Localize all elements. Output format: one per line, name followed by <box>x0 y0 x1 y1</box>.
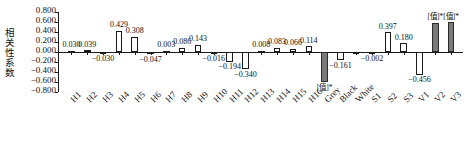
x-tick-label-s1: S1 <box>370 91 383 104</box>
x-tick-label-s2: S2 <box>386 91 399 104</box>
x-axis-tick <box>277 52 278 55</box>
bar-v1[interactable] <box>416 52 423 75</box>
bar-value-label: −0.030 <box>91 55 115 63</box>
y-axis-tick <box>55 42 59 43</box>
bar-h2[interactable] <box>84 50 91 52</box>
y-tick-label: 0.800 <box>14 6 56 15</box>
x-tick-label-v1: V1 <box>417 90 431 104</box>
bar-value-label: −0.340 <box>233 71 257 79</box>
x-axis-tick <box>309 52 310 55</box>
bar-s2[interactable] <box>385 32 392 52</box>
x-tick-label-v3: V3 <box>449 90 463 104</box>
x-axis-tick <box>435 52 436 55</box>
plot-area: 0.0300.039−0.0300.4290.308−0.0470.0030.0… <box>58 12 463 92</box>
x-tick-label-h6: H6 <box>149 90 163 104</box>
bar-h5[interactable] <box>131 37 138 52</box>
x-tick-label-h7: H7 <box>164 90 178 104</box>
bar-h9[interactable] <box>195 45 202 52</box>
y-tick-label: 0.000 <box>14 46 56 55</box>
bar-value-label: 0.039 <box>75 41 99 49</box>
x-tick-label-v2: V2 <box>433 90 447 104</box>
bar-black[interactable] <box>337 52 344 60</box>
y-tick-label: −0.400 <box>14 66 56 75</box>
y-tick-label: −0.800 <box>14 86 56 95</box>
bar-s3[interactable] <box>400 43 407 52</box>
y-axis-tick <box>55 92 59 93</box>
y-axis-tick <box>55 12 59 13</box>
bar-h11[interactable] <box>226 52 233 62</box>
y-axis-tick-labels: 0.8000.6000.4000.2000.000−0.200−0.400−0.… <box>14 6 56 98</box>
x-axis-tick <box>135 52 136 55</box>
bar-v3[interactable] <box>448 22 455 52</box>
bar-value-label: 0.397 <box>376 23 400 31</box>
bar-grey[interactable] <box>321 52 328 82</box>
y-axis-tick <box>55 52 59 53</box>
bar-value-label: 0.308 <box>123 27 147 35</box>
x-tick-label-h4: H4 <box>117 90 131 104</box>
x-axis-tick <box>293 52 294 55</box>
x-tick-label-h3: H3 <box>101 90 115 104</box>
bar-h6[interactable] <box>147 52 154 54</box>
x-tick-label-h5: H5 <box>133 90 147 104</box>
bar-value-label: −0.047 <box>139 56 163 64</box>
x-axis-tick <box>404 52 405 55</box>
y-tick-label: 0.200 <box>14 36 56 45</box>
x-axis-tick <box>182 52 183 55</box>
x-axis-tick <box>119 52 120 55</box>
x-axis-tick-labels: H1H2H3H4H5H6H7H8H9H10H11H12H13H14H15H16G… <box>58 96 463 150</box>
bar-h14[interactable] <box>274 48 281 52</box>
bar-h13[interactable] <box>258 51 265 53</box>
bar-h7[interactable] <box>163 51 170 53</box>
x-tick-label-s3: S3 <box>402 91 415 104</box>
bar-white[interactable] <box>353 52 360 54</box>
y-tick-label: −0.200 <box>14 56 56 65</box>
y-tick-label: −0.600 <box>14 76 56 85</box>
bar-value-label: −0.002 <box>360 55 384 63</box>
x-tick-label-h8: H8 <box>180 90 194 104</box>
y-axis-tick <box>55 32 59 33</box>
y-axis-tick <box>55 22 59 23</box>
x-axis-tick <box>198 52 199 55</box>
x-axis-tick <box>451 52 452 55</box>
bar-value-label: −0.161 <box>328 62 352 70</box>
bar-value-label: [值]* <box>438 13 464 21</box>
x-tick-label-h1: H1 <box>69 90 83 104</box>
bar-value-label: 0.143 <box>186 35 210 43</box>
bar-h1[interactable] <box>68 51 75 53</box>
bar-v2[interactable] <box>432 23 439 52</box>
bar-value-label: 0.114 <box>297 37 321 45</box>
bar-value-label: 0.180 <box>392 34 416 42</box>
chart-container: 相关性系数 0.8000.6000.4000.2000.000−0.200−0.… <box>0 0 469 150</box>
y-axis-tick <box>55 62 59 63</box>
y-tick-label: 0.400 <box>14 26 56 35</box>
bar-h4[interactable] <box>116 31 123 52</box>
x-tick-label-h2: H2 <box>85 90 99 104</box>
y-tick-label: 0.600 <box>14 16 56 25</box>
bar-h12[interactable] <box>242 52 249 69</box>
bar-h16[interactable] <box>306 46 313 52</box>
bar-h8[interactable] <box>179 48 186 52</box>
bar-h15[interactable] <box>290 49 297 52</box>
x-axis-tick <box>87 52 88 55</box>
bar-value-label: −0.456 <box>407 76 431 84</box>
y-axis-tick <box>55 82 59 83</box>
x-axis-tick <box>388 52 389 55</box>
y-axis-tick <box>55 72 59 73</box>
x-tick-label-h9: H9 <box>196 90 210 104</box>
